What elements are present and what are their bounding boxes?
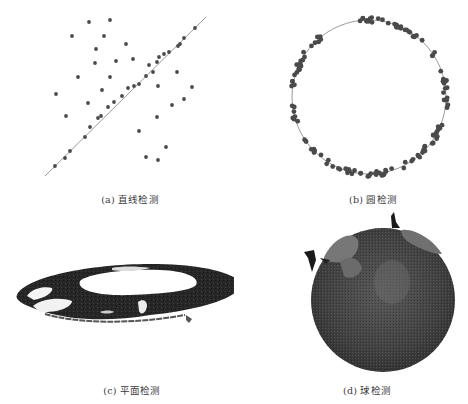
data-point [64, 114, 68, 118]
data-point [137, 82, 141, 86]
data-point [99, 114, 103, 118]
panel-plane-detection: (c) 平面检测 [0, 202, 234, 404]
data-point [401, 166, 406, 171]
data-point [443, 86, 448, 91]
data-point [131, 57, 135, 61]
data-point [414, 33, 419, 38]
data-point [295, 119, 300, 124]
data-point [416, 153, 421, 158]
data-point [394, 23, 399, 28]
caption-c: (c) 平面检测 [103, 383, 160, 397]
data-point [93, 61, 97, 65]
data-point [302, 55, 307, 60]
data-point [290, 79, 295, 84]
data-point [411, 157, 416, 162]
data-point [290, 103, 295, 108]
data-point [431, 141, 436, 146]
data-point [178, 42, 182, 46]
data-point [383, 168, 388, 173]
data-point [379, 173, 384, 178]
panel-circle-detection: (b) 圆检测 [234, 0, 468, 202]
data-point [132, 84, 136, 88]
data-point [167, 50, 171, 54]
data-point [102, 34, 106, 38]
data-point [182, 36, 186, 40]
caption-d: (d) 球检测 [343, 383, 391, 397]
data-point [324, 161, 329, 166]
data-point [431, 133, 436, 138]
data-point [120, 94, 124, 98]
data-point [438, 69, 443, 74]
data-point [53, 164, 57, 168]
plane-point-cloud [0, 202, 234, 404]
data-point [318, 34, 323, 39]
data-point [164, 145, 168, 149]
data-point [83, 135, 87, 139]
data-point [63, 156, 67, 160]
data-point [358, 171, 363, 176]
data-point [436, 126, 441, 131]
data-point [156, 84, 160, 88]
data-point [88, 125, 92, 129]
data-point [193, 26, 197, 30]
data-point [336, 166, 341, 171]
data-point [313, 40, 318, 45]
data-point [420, 38, 425, 43]
data-point [312, 150, 317, 155]
data-point [423, 149, 428, 154]
data-point [87, 20, 91, 24]
data-point [380, 17, 385, 22]
data-point [151, 70, 155, 74]
data-point [70, 34, 74, 38]
line-scatter-plot [0, 0, 234, 202]
data-point [386, 21, 391, 26]
data-point [296, 68, 301, 73]
data-point [445, 105, 450, 110]
data-point [365, 174, 370, 179]
data-point [301, 50, 306, 55]
data-point [144, 155, 148, 159]
data-point [407, 30, 412, 35]
data-point [366, 19, 371, 24]
data-point [175, 70, 179, 74]
data-point [292, 109, 297, 114]
data-point [114, 59, 118, 63]
data-point [444, 78, 449, 83]
data-point [54, 92, 58, 96]
data-point [94, 47, 98, 51]
data-point [430, 53, 435, 58]
data-point [100, 88, 104, 92]
data-point [162, 52, 166, 56]
data-point [137, 129, 141, 133]
data-point [108, 18, 112, 22]
data-point [319, 153, 324, 158]
data-point [358, 19, 363, 24]
data-point [403, 160, 408, 165]
data-point [124, 42, 128, 46]
data-point [155, 115, 159, 119]
data-point [373, 171, 378, 176]
data-point [76, 75, 80, 79]
sphere-point-cloud [234, 202, 468, 404]
circle-scatter-plot [234, 0, 468, 202]
panel-sphere-detection: (d) 球检测 [234, 202, 468, 404]
data-point [441, 90, 446, 95]
data-point [445, 95, 450, 100]
data-point [144, 74, 148, 78]
data-point [389, 166, 394, 171]
data-point [343, 166, 348, 171]
data-point [182, 97, 186, 101]
data-point [294, 62, 299, 67]
data-point [330, 164, 335, 169]
data-point [170, 103, 174, 107]
data-point [112, 100, 116, 104]
data-point [68, 149, 72, 153]
data-point [304, 139, 309, 144]
data-point [147, 63, 151, 67]
data-point [126, 86, 130, 90]
panel-line-detection: (a) 直线检测 [0, 0, 234, 202]
data-point [293, 114, 298, 119]
data-point [403, 28, 408, 33]
data-point [157, 55, 161, 59]
data-point [376, 16, 381, 21]
